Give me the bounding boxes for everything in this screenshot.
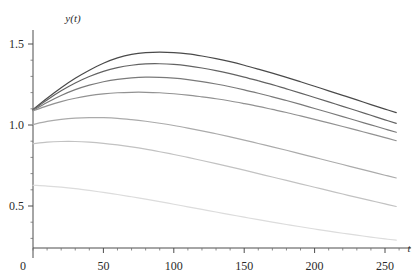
chart-svg: 0.51.01.5 50100150200250 y(t) t 0 <box>0 0 419 275</box>
x-tick-label: 250 <box>376 259 394 273</box>
x-tick-label: 150 <box>235 259 253 273</box>
x-axis-tick-labels: 50100150200250 <box>97 259 394 273</box>
plot-root: 0.51.01.5 50100150200250 y(t) t 0 <box>0 0 419 275</box>
y-tick-label: 1.5 <box>9 37 24 51</box>
origin-tick-label: 0 <box>20 259 26 273</box>
data-curve <box>33 77 396 132</box>
y-axis-tick-labels: 0.51.01.5 <box>9 37 24 213</box>
y-axis-ticks <box>28 44 33 238</box>
y-tick-label: 0.5 <box>9 199 24 213</box>
data-curve <box>33 52 396 113</box>
data-curve <box>33 141 396 206</box>
y-axis-label: y(t) <box>64 12 81 25</box>
data-curve <box>33 64 396 124</box>
axes-group <box>33 30 411 258</box>
x-axis-ticks <box>33 248 399 253</box>
x-tick-label: 200 <box>306 259 324 273</box>
x-tick-label: 50 <box>97 259 109 273</box>
x-tick-label: 100 <box>165 259 183 273</box>
y-tick-label: 1.0 <box>9 118 24 132</box>
curve-series-group <box>33 52 396 240</box>
